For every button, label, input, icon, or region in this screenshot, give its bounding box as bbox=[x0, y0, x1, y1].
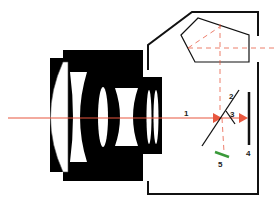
label-4: 4 bbox=[246, 149, 251, 158]
lens-assembly bbox=[50, 50, 162, 181]
label-2: 2 bbox=[229, 92, 234, 101]
slr-diagram: 1 2 3 4 5 bbox=[0, 0, 280, 206]
label-3: 3 bbox=[230, 110, 235, 119]
pentaprism bbox=[181, 18, 249, 62]
viewfinder-path bbox=[188, 24, 275, 152]
camera-body bbox=[148, 12, 258, 194]
label-1: 1 bbox=[184, 109, 189, 118]
label-5: 5 bbox=[218, 160, 223, 169]
af-sensor bbox=[215, 152, 229, 157]
